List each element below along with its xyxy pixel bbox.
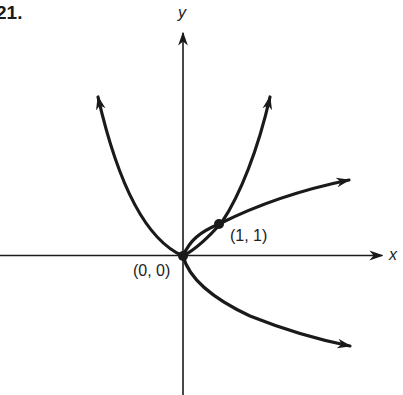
- sqrt-lower-branch: [183, 256, 350, 346]
- graph-canvas: [0, 0, 403, 395]
- x-axis-label: x: [389, 246, 397, 264]
- origin-point: [178, 251, 188, 261]
- parabola-left-branch: [98, 97, 183, 256]
- intersection-point-1-1: [214, 219, 224, 229]
- y-axis-label: y: [178, 4, 186, 22]
- point-1-1-label: (1, 1): [230, 227, 267, 245]
- origin-label: (0, 0): [133, 262, 170, 280]
- graph-figure: 21. y x (0, 0) (1, 1): [0, 0, 403, 395]
